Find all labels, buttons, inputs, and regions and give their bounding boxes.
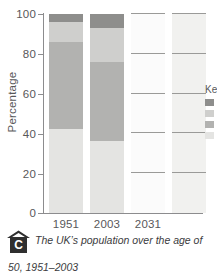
gridline bbox=[131, 13, 165, 14]
gridline bbox=[131, 172, 165, 173]
y-axis-title: Percentage bbox=[6, 42, 18, 162]
legend-item[interactable] bbox=[205, 121, 217, 128]
legend-item[interactable] bbox=[205, 110, 217, 117]
legend-item[interactable] bbox=[205, 132, 217, 139]
legend-swatch-icon bbox=[205, 121, 214, 128]
bar-segment bbox=[49, 42, 83, 130]
gridline bbox=[131, 132, 165, 133]
caption-line-1: The UK’s population over the age of bbox=[35, 234, 213, 248]
bar-segment bbox=[49, 14, 83, 22]
legend-item[interactable] bbox=[205, 99, 217, 106]
gridline bbox=[131, 93, 165, 94]
legend-title: Key bbox=[205, 84, 217, 95]
gridline bbox=[172, 13, 206, 14]
gridline bbox=[172, 93, 206, 94]
x-axis-labels: 1951 2003 2031 bbox=[43, 218, 213, 234]
bar-segment bbox=[90, 141, 124, 213]
legend-swatch-icon bbox=[205, 99, 214, 106]
y-tick-label-20: 20 bbox=[2, 168, 36, 180]
bar-segment bbox=[172, 14, 206, 213]
bar-segment bbox=[90, 14, 124, 28]
gridline bbox=[172, 53, 206, 54]
y-tick-label-0: 0 bbox=[2, 207, 36, 219]
legend: Key bbox=[205, 84, 217, 139]
bar-segment bbox=[90, 28, 124, 62]
bar-1951[interactable] bbox=[49, 14, 83, 213]
gridline bbox=[131, 53, 165, 54]
bar-2031[interactable] bbox=[131, 14, 165, 213]
legend-swatch-icon bbox=[205, 110, 214, 117]
x-axis-line bbox=[43, 213, 203, 214]
bar-segment bbox=[49, 129, 83, 213]
bar-segment bbox=[90, 62, 124, 142]
caption-badge: C bbox=[10, 237, 27, 253]
caption-line-2: 50, 1951–2003 bbox=[8, 261, 213, 275]
bar-segment bbox=[49, 22, 83, 42]
legend-swatch-icon bbox=[205, 132, 214, 139]
x-tick-label-1951: 1951 bbox=[46, 218, 86, 230]
gridline bbox=[172, 172, 206, 173]
x-tick-label-2003: 2003 bbox=[87, 218, 127, 230]
y-tick-label-100: 100 bbox=[2, 8, 36, 20]
bar-segment bbox=[131, 14, 165, 213]
x-tick-label-2031: 2031 bbox=[128, 218, 168, 230]
bar-2003[interactable] bbox=[90, 14, 124, 213]
gridline bbox=[172, 132, 206, 133]
bar-extra[interactable] bbox=[172, 14, 206, 213]
plot-area bbox=[43, 14, 203, 213]
